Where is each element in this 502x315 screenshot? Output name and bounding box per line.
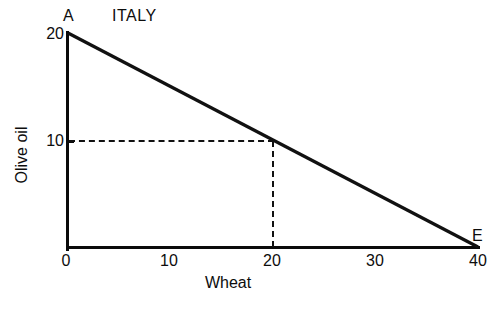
x-tick-label-0: 0 <box>46 252 86 270</box>
y-axis-title: Olive oil <box>13 110 31 200</box>
x-tick-label-30: 30 <box>355 252 395 270</box>
x-tick-label-20: 20 <box>252 252 292 270</box>
x-tick-label-10: 10 <box>149 252 189 270</box>
guide-line-vertical <box>272 141 274 247</box>
x-tick-label-40: 40 <box>458 252 498 270</box>
point-label-e: E <box>472 227 483 245</box>
guide-line-horizontal <box>69 140 274 142</box>
ppf-chart: ITALY A E 20 10 0 10 20 30 40 Wheat Oliv… <box>0 0 502 315</box>
y-tick-label-20: 20 <box>34 25 64 43</box>
point-label-a: A <box>63 7 74 25</box>
y-tick-label-10: 10 <box>34 132 64 150</box>
x-axis-title: Wheat <box>178 274 278 292</box>
